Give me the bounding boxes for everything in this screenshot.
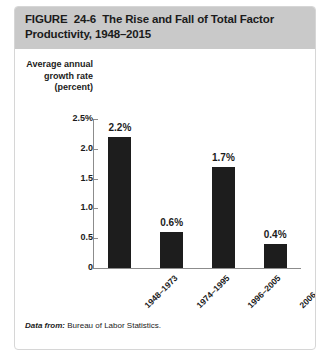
bar-value-label: 0.4% bbox=[264, 229, 287, 240]
y-axis-tick-label-row: 2.5% bbox=[15, 119, 93, 120]
bars-layer: 2.2%0.6%1.7%0.4% bbox=[94, 119, 301, 268]
chart-plot-area: Average annual growth rate (percent) 00.… bbox=[15, 49, 316, 350]
y-axis-title: Average annual growth rate (percent) bbox=[21, 59, 93, 94]
y-axis-tick-label: 2.0 bbox=[47, 143, 93, 153]
y-axis-tick-label-row: 0 bbox=[15, 268, 93, 269]
y-axis-tick-label: 0.5 bbox=[47, 232, 93, 242]
y-axis-title-line1: Average annual bbox=[21, 59, 93, 71]
bar-value-label: 1.7% bbox=[212, 152, 235, 163]
bar bbox=[160, 232, 183, 268]
figure-title-line1: FIGURE 24-6 The Rise and Fall of Total F… bbox=[25, 13, 274, 25]
y-axis-title-line2: growth rate bbox=[21, 71, 93, 83]
source-text: Bureau of Labor Statistics. bbox=[67, 321, 161, 330]
y-axis-tick-label: 1.0 bbox=[47, 202, 93, 212]
y-axis-tick-label-row: 0.5 bbox=[15, 238, 93, 239]
figure-title: FIGURE 24-6 The Rise and Fall of Total F… bbox=[25, 12, 305, 42]
source-lead: Data from: bbox=[25, 321, 65, 330]
figure-title-line2: Productivity, 1948–2015 bbox=[25, 28, 151, 40]
y-axis-tick-label-row: 2.0 bbox=[15, 149, 93, 150]
y-axis-tick-label: 0 bbox=[47, 262, 93, 272]
bar bbox=[108, 137, 131, 268]
figure-header: FIGURE 24-6 The Rise and Fall of Total F… bbox=[15, 7, 315, 49]
x-axis-category-label: 1996–2005 bbox=[246, 273, 283, 310]
x-axis-line bbox=[93, 268, 301, 269]
y-axis-tick-label: 1.5 bbox=[47, 173, 93, 183]
x-axis-category-label: 1948–1973 bbox=[142, 273, 179, 310]
bar bbox=[264, 244, 287, 268]
y-axis-tick-label: 2.5% bbox=[47, 113, 93, 123]
bar-value-label: 2.2% bbox=[108, 122, 131, 133]
y-axis-tick-mark bbox=[93, 268, 98, 269]
x-axis-category-label: 1974–1995 bbox=[194, 273, 231, 310]
bar-value-label: 0.6% bbox=[160, 217, 183, 228]
y-axis-tick-label-row: 1.0 bbox=[15, 208, 93, 209]
bar bbox=[212, 167, 235, 268]
source-note: Data from: Bureau of Labor Statistics. bbox=[25, 321, 161, 330]
x-axis-category-label: 2006–2015 bbox=[298, 273, 316, 310]
figure-container: FIGURE 24-6 The Rise and Fall of Total F… bbox=[14, 6, 316, 350]
y-axis-tick-label-row: 1.5 bbox=[15, 179, 93, 180]
y-axis-title-line3: (percent) bbox=[21, 82, 93, 94]
